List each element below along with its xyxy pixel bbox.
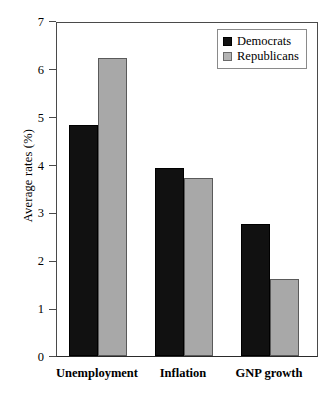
bar-inflation-democrats (155, 168, 184, 356)
legend-item-democrats: Democrats (223, 34, 299, 49)
bar-gnp-growth-republicans (270, 279, 299, 356)
bar-chart: Average rates (%) 01234567 UnemploymentI… (0, 0, 332, 394)
y-axis-tick-label: 1 (14, 303, 44, 316)
bar-gnp-growth-democrats (241, 224, 270, 356)
y-axis-tick-label: 5 (14, 111, 44, 124)
y-axis-tick-label: 0 (14, 351, 44, 364)
legend-swatch-republicans-icon (223, 52, 232, 61)
x-axis-label-gnp-growth: GNP growth (199, 366, 332, 381)
y-axis-tick (49, 165, 56, 166)
y-axis-tick-label: 3 (14, 207, 44, 220)
plot-area (56, 22, 318, 357)
y-axis-tick-label: 7 (14, 16, 44, 29)
legend-item-republicans: Republicans (223, 49, 299, 64)
y-axis-tick-label: 6 (14, 64, 44, 77)
y-axis-tick-label: 2 (14, 255, 44, 268)
chart-legend: Democrats Republicans (217, 29, 307, 69)
y-axis-tick (49, 261, 56, 262)
bar-inflation-republicans (184, 178, 213, 356)
bar-unemployment-republicans (98, 58, 127, 356)
legend-label-democrats: Democrats (237, 35, 291, 48)
bar-unemployment-democrats (69, 125, 98, 356)
y-axis-tick (49, 69, 56, 70)
y-axis-tick (49, 21, 56, 22)
legend-label-republicans: Republicans (237, 50, 299, 63)
legend-swatch-democrats-icon (223, 37, 232, 46)
y-axis-tick (49, 117, 56, 118)
y-axis-tick (49, 309, 56, 310)
y-axis-tick (49, 213, 56, 214)
y-axis-tick-label: 4 (14, 159, 44, 172)
y-axis-tick (49, 356, 56, 357)
